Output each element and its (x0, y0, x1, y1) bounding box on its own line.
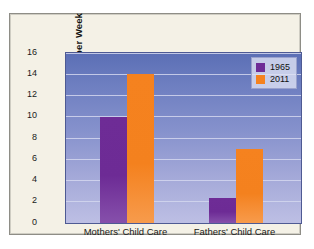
bar (236, 149, 263, 223)
y-axis-tick-label: 8 (7, 133, 37, 142)
x-axis-tick-label: Fathers' Child Care (175, 226, 295, 237)
legend-item-label: 2011 (270, 74, 289, 84)
legend-item: 2011 (256, 73, 290, 85)
bar (209, 198, 236, 224)
legend-item: 1965 (256, 61, 290, 73)
gridline (66, 95, 301, 96)
y-axis-tick-label: 0 (7, 218, 37, 227)
y-axis-tick-label: 14 (7, 69, 37, 78)
y-axis-tick-label: 4 (7, 175, 37, 184)
y-axis-tick-label: 10 (7, 111, 37, 120)
gridline (66, 53, 301, 54)
purple-swatch-icon (256, 63, 265, 72)
y-axis-tick-label: 2 (7, 196, 37, 205)
chart-figure: Mean Hours per Week 0246810121416 Mother… (0, 0, 314, 249)
y-axis-tick-label: 16 (7, 48, 37, 57)
chart-legend: 1965 2011 (251, 57, 297, 89)
y-axis-title-container: Mean Hours per Week (35, 54, 49, 220)
orange-swatch-icon (256, 75, 265, 84)
bar (127, 74, 154, 223)
y-axis-tick-label: 12 (7, 90, 37, 99)
legend-item-label: 1965 (270, 62, 290, 72)
chart-card: Mean Hours per Week 0246810121416 Mother… (9, 13, 301, 235)
y-axis-tick-label: 6 (7, 154, 37, 163)
x-axis-tick-label: Mothers' Child Care (66, 226, 186, 237)
bar (100, 117, 127, 223)
plot-area: 1965 2011 (65, 52, 302, 224)
